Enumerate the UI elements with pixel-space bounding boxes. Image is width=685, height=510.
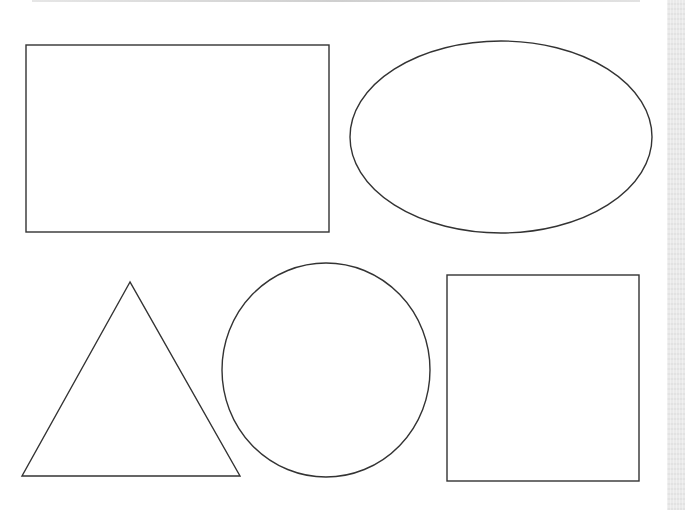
ellipse-shape (350, 41, 652, 233)
rectangle-shape (26, 45, 329, 232)
textured-side-strip (667, 0, 685, 510)
shapes-canvas (0, 0, 685, 510)
circle-shape (222, 263, 430, 477)
square-shape (447, 275, 639, 481)
triangle-shape (22, 282, 240, 476)
